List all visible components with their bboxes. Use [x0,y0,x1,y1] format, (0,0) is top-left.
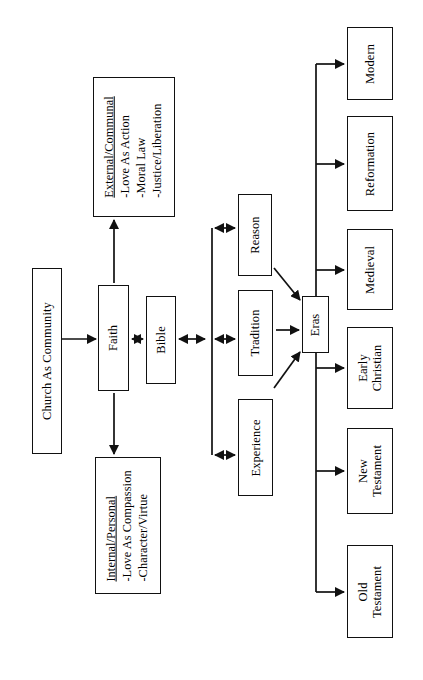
node-new-testament[interactable]: New Testament [347,428,393,514]
node-label: Bible [154,326,168,354]
node-label-group: External/Communal -Love As Action -Moral… [102,96,166,197]
node-early-christian[interactable]: Early Christian [347,327,393,409]
edge-experience-to-eras [274,352,300,388]
node-external-communal[interactable]: External/Communal -Love As Action -Moral… [93,77,175,217]
node-label: Church As Community [40,302,54,420]
node-eras[interactable]: Eras [302,296,329,353]
node-bullet-2: -Moral Law [134,96,150,197]
node-header: External/Communal [102,96,118,197]
node-tradition[interactable]: Tradition [238,290,273,376]
node-bullet-2: -Character/Virtue [136,470,152,581]
node-label-group: Internal/Personal -Love As Compassion -C… [104,470,152,581]
node-label-line-1: New [356,445,370,497]
node-label-group: New Testament [356,445,384,497]
node-label: Medieval [363,245,377,293]
node-label-group: Old Testament [356,565,384,617]
node-label: Faith [106,325,120,351]
node-reformation[interactable]: Reformation [347,116,393,211]
node-church-as-community[interactable]: Church As Community [32,268,62,454]
node-old-testament[interactable]: Old Testament [347,545,393,638]
node-label: Modern [363,43,377,83]
node-reason[interactable]: Reason [238,194,272,276]
node-bible[interactable]: Bible [146,296,176,384]
node-label: Reason [248,216,262,253]
node-modern[interactable]: Modern [347,27,393,100]
node-label: Eras [309,313,323,336]
node-label-line-2: Testament [370,565,384,617]
diagram-canvas: Church As Community Faith Bible External… [0,0,423,680]
node-experience[interactable]: Experience [238,399,273,496]
node-medieval[interactable]: Medieval [347,229,393,310]
node-label-group: Early Christian [356,345,384,392]
edge-reason-to-eras [274,268,300,300]
node-header: Internal/Personal [104,470,120,581]
node-internal-personal[interactable]: Internal/Personal -Love As Compassion -C… [95,457,161,594]
node-faith[interactable]: Faith [98,285,129,391]
node-label: Tradition [249,310,263,357]
node-label-line-1: Early [356,345,370,392]
node-label-line-2: Testament [370,445,384,497]
node-bullet-1: -Love As Compassion [120,470,136,581]
node-bullet-3: -Justice/Liberation [150,96,166,197]
node-label: Experience [249,419,263,476]
node-label-line-2: Christian [370,345,384,392]
node-label-line-1: Old [356,565,370,617]
node-bullet-1: -Love As Action [118,96,134,197]
node-label: Reformation [363,131,377,195]
